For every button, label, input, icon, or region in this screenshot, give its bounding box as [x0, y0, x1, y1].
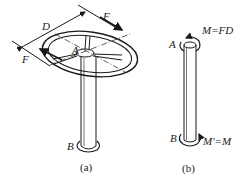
wheel-rim-outer: [39, 26, 140, 83]
shaft-top: [184, 42, 196, 48]
label-point-b-b: B: [170, 133, 177, 144]
label-moment-bottom: M′=M: [203, 136, 231, 147]
label-moment-top: M=FD: [202, 25, 233, 36]
label-force-top: F: [103, 11, 110, 22]
shaft-figure: [179, 37, 200, 146]
label-force-left: F: [22, 54, 29, 65]
label-point-b: B: [67, 141, 74, 152]
moment-arrow-bottom: [179, 134, 200, 146]
moment-arrow-top: [180, 37, 200, 51]
label-diameter-d: D: [42, 21, 50, 32]
caption-a: (a): [80, 162, 92, 173]
handwheel-figure: [12, 5, 141, 152]
caption-b: (b): [182, 163, 195, 174]
label-point-a-b: A: [169, 39, 176, 50]
label-point-a: A: [72, 45, 79, 56]
